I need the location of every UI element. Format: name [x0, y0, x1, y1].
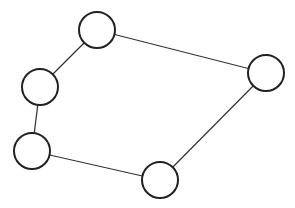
node-n1: [79, 12, 115, 48]
graph-diagram: [0, 0, 295, 208]
edge-n5-n1: [97, 30, 266, 73]
node-n4: [142, 162, 178, 198]
nodes-layer: [14, 12, 284, 198]
node-n2: [22, 69, 58, 105]
edges-layer: [32, 30, 266, 180]
node-n3: [14, 133, 50, 169]
node-n5: [248, 55, 284, 91]
edge-n3-n4: [32, 151, 160, 180]
edge-n4-n5: [160, 73, 266, 180]
